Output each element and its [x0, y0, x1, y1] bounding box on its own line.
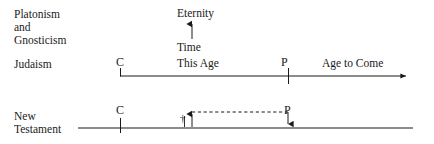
axis-label-time: Time: [177, 41, 201, 55]
row-label-judaism: Judaism: [14, 58, 52, 72]
span-label-age-to-come: Age to Come: [322, 57, 383, 71]
row-label-testament: Testament: [14, 123, 61, 137]
timeline-figure: Platonism and Gnosticism Judaism New Tes…: [0, 0, 434, 144]
marker-nt-cross-icon: †: [180, 112, 186, 124]
axis-label-eternity: Eternity: [177, 7, 214, 21]
row-label-and: and: [14, 21, 31, 35]
row-label-new: New: [14, 110, 36, 124]
span-label-this-age: This Age: [177, 57, 219, 71]
row-label-platonism: Platonism: [14, 8, 60, 22]
diagram-lines-layer: [0, 0, 434, 144]
new-testament-axis: [78, 112, 413, 133]
marker-nt-parousia: P: [284, 104, 291, 116]
row-label-gnosticism: Gnosticism: [14, 34, 66, 48]
marker-nt-creation: C: [116, 104, 124, 116]
marker-judaism-parousia: P: [281, 56, 288, 68]
marker-judaism-creation: C: [116, 56, 124, 68]
